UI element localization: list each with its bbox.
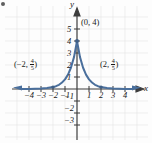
y-tick-label--2: −2 [64, 104, 74, 113]
x-axis-label: x [144, 84, 148, 93]
x-tick-label--2: −2 [48, 91, 58, 100]
point-label-left-suffix: ) [34, 59, 37, 69]
y-axis-label: y [70, 0, 74, 9]
x-tick-label--3: −3 [36, 91, 46, 100]
y-tick-label--1: −1 [64, 92, 74, 101]
curve-arrow-left [13, 86, 22, 91]
point-label-right-prefix: (2, [100, 59, 111, 69]
y-tick-label-3: 3 [67, 49, 71, 58]
x-tick-label-4: 4 [123, 91, 127, 100]
y-tick-label-1: 1 [67, 73, 71, 82]
y-tick-label-4: 4 [67, 37, 71, 46]
y-tick-label--3: −3 [64, 116, 74, 125]
fraction-denominator: 5 [30, 64, 34, 71]
fraction-four-fifths-left: 45 [30, 58, 34, 72]
fraction-four-fifths-right: 45 [111, 58, 115, 72]
x-tick-label-2: 2 [99, 91, 103, 100]
x-tick-label--4: −4 [24, 91, 34, 100]
x-tick-label-3: 3 [111, 91, 115, 100]
data-point-left [51, 85, 54, 88]
graph-figure: y x −4 −3 −2 −1 1 2 3 4 5 4 3 2 1 −1 −2 … [0, 0, 152, 143]
point-label-right: (2, 45) [100, 58, 118, 72]
y-axis-arrow [74, 8, 80, 16]
point-label-left: (−2, 45) [14, 58, 37, 72]
fraction-denominator: 5 [111, 64, 115, 71]
axes [12, 8, 144, 140]
data-point-vertex [75, 39, 79, 43]
point-label-vertex: (0, 4) [81, 18, 99, 27]
point-label-right-suffix: ) [115, 59, 118, 69]
y-tick-label-5: 5 [67, 25, 71, 34]
data-point-right [99, 85, 102, 88]
y-tick-label-2: 2 [67, 61, 71, 70]
x-tick-label-1: 1 [87, 91, 91, 100]
point-label-left-prefix: (−2, [14, 59, 30, 69]
